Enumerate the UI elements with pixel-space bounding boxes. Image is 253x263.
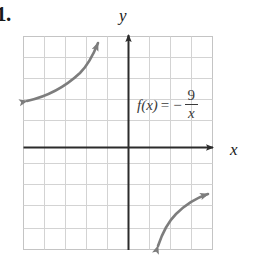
equation-denominator: x xyxy=(186,106,197,121)
curve-branch-upper-left xyxy=(27,43,98,101)
equation-annotation: f(x) = − 9 x xyxy=(137,89,198,122)
equation-equals-sign: = xyxy=(160,97,170,114)
equation-fraction: 9 x xyxy=(185,88,198,121)
equation-negative-sign: − xyxy=(172,97,182,114)
x-axis-label: x xyxy=(230,140,238,160)
figure-container: 1. xyxy=(0,0,253,263)
curve-branches xyxy=(27,43,208,246)
equation-function-name: f(x) xyxy=(137,97,158,114)
y-axis-label: y xyxy=(119,6,127,26)
equation-numerator: 9 xyxy=(186,88,198,103)
axes xyxy=(24,35,214,250)
grid-lines xyxy=(24,37,213,250)
graph-canvas xyxy=(0,0,253,263)
curve-branch-lower-right xyxy=(158,194,208,246)
